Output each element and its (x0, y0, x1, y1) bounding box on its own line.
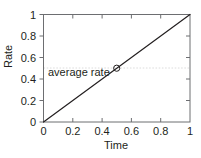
x-tick-label-0: 0 (40, 126, 46, 137)
y-tick-label-0.2: 0.2 (7, 95, 36, 106)
x-tick-label-0.2: 0.2 (65, 126, 80, 137)
y-tick-label-0: 0 (12, 117, 36, 128)
average-rate-marker (114, 65, 120, 71)
x-tick-label-1: 1 (187, 126, 193, 137)
y-tick-label-0.8: 0.8 (7, 31, 36, 42)
average-rate-annotation: average rate (48, 66, 110, 78)
y-axis-label: Rate (3, 45, 14, 68)
chart-figure: 1 0.8 0.6 0.4 0.2 0 0 0.2 0.4 0.6 0.8 1 … (0, 0, 201, 158)
x-tick-label-0.4: 0.4 (94, 126, 109, 137)
x-tick-label-0.8: 0.8 (153, 126, 168, 137)
x-tick-label-0.6: 0.6 (124, 126, 139, 137)
y-tick-label-0.4: 0.4 (7, 74, 36, 85)
x-axis-label: Time (104, 140, 128, 151)
y-tick-label-1: 1 (12, 9, 36, 20)
y-axis-ticks (40, 15, 44, 123)
